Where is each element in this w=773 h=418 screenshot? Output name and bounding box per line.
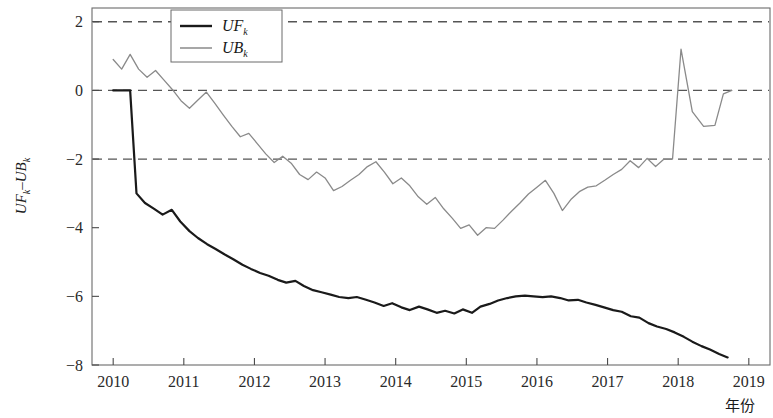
y-tick-label-0: 0 [75, 82, 83, 99]
x-axis-title: 年份 [725, 397, 755, 415]
x-tick-label-2011: 2011 [168, 373, 199, 390]
legend-label-ubk: UB [222, 39, 244, 56]
y-tick-label--2: −2 [66, 151, 83, 168]
x-tick-label-2010: 2010 [97, 373, 129, 390]
y-axis-title-uf: UF [13, 193, 29, 214]
y-tick-label--8: −8 [66, 357, 83, 374]
x-tick-label-2017: 2017 [592, 373, 624, 390]
x-tick-label-2012: 2012 [238, 373, 270, 390]
chart-canvas: 20−2−4−6−8 20102011201220132014201520162… [0, 0, 773, 418]
mann-kendall-chart-figure: 20−2−4−6−8 20102011201220132014201520162… [0, 0, 773, 418]
y-axis-title-ub-sub: k [21, 157, 32, 162]
x-tick-label-2019: 2019 [733, 373, 765, 390]
x-axis-label-group: 2010201120122013201420152016201720182019 [97, 373, 765, 390]
chart-legend: UFk UBk [171, 10, 282, 62]
y-axis-label-group: 20−2−4−6−8 [66, 13, 83, 373]
x-tick-label-2018: 2018 [662, 373, 694, 390]
x-tick-label-2014: 2014 [380, 373, 412, 390]
x-tick-label-2013: 2013 [309, 373, 341, 390]
legend-label-ufk: UF [222, 17, 244, 34]
x-tick-label-2015: 2015 [450, 373, 482, 390]
y-tick-label--4: −4 [66, 219, 83, 236]
svg-text:UFk–UBk: UFk–UBk [13, 157, 32, 214]
y-axis-title: UFk–UBk [13, 157, 32, 214]
y-tick-label-2: 2 [75, 13, 83, 30]
y-axis-title-ub: UB [13, 162, 29, 182]
legend-label-ubk-sub: k [243, 48, 248, 59]
legend-label-ufk-sub: k [243, 26, 248, 37]
x-tick-label-2016: 2016 [521, 373, 553, 390]
y-tick-label--6: −6 [66, 288, 83, 305]
